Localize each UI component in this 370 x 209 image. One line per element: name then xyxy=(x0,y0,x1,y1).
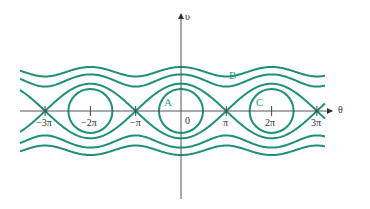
tick-label-pi: π xyxy=(223,118,228,128)
tick-label-neg3pi: −3π xyxy=(36,118,52,128)
tick-label-negpi: −π xyxy=(130,118,141,128)
phase-portrait xyxy=(0,0,370,209)
point-label-c: C xyxy=(256,97,263,108)
tick-label-neg2pi: −2π xyxy=(81,118,97,128)
tick-label-3pi: 3π xyxy=(311,118,321,128)
point-label-b: B xyxy=(229,70,236,81)
theta-axis-label: θ xyxy=(338,105,343,115)
v-axis-label: υ xyxy=(185,12,190,22)
point-label-a: A xyxy=(164,97,172,108)
tick-label-zero: 0 xyxy=(185,116,190,126)
tick-label-2pi: 2π xyxy=(265,118,275,128)
